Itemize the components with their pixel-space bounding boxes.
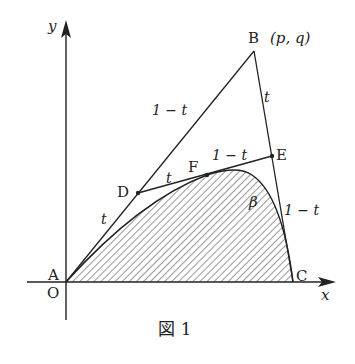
label-C: C (296, 267, 307, 285)
point-E (270, 154, 274, 158)
label-beta: β (248, 193, 258, 211)
label-EC: 1 − t (284, 202, 320, 218)
label-FE: 1 − t (212, 147, 248, 163)
label-E: E (276, 146, 287, 164)
point-D (136, 191, 140, 195)
label-AD: t (101, 211, 107, 227)
y-axis-label: y (47, 17, 57, 35)
figure-caption: 図 1 (158, 319, 191, 339)
x-axis-label: x (321, 286, 330, 304)
label-DB: 1 − t (152, 102, 188, 118)
label-B: B (248, 29, 259, 47)
label-F: F (188, 158, 198, 176)
label-B-coords: (p, q) (270, 29, 311, 47)
label-O: O (47, 284, 59, 302)
label-D: D (117, 183, 129, 201)
label-BE: t (264, 89, 270, 105)
figure-1: y x A O B (p, q) C D E F t 1 − t t 1 − t… (0, 0, 355, 364)
label-A: A (47, 266, 59, 284)
point-F (205, 173, 209, 177)
label-DF: t (166, 170, 172, 186)
